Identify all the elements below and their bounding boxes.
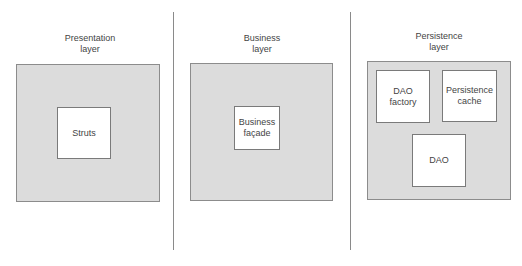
layer-divider-2 <box>350 12 351 250</box>
business-layer-title: Business layer <box>212 33 312 55</box>
struts-component: Struts <box>57 107 111 159</box>
struts-label: Struts <box>72 128 96 139</box>
dao-component: DAO <box>412 134 466 187</box>
layer-divider-1 <box>173 12 174 250</box>
persistence-layer-title: Persistence layer <box>389 31 489 53</box>
persistence-cache-label: Persistence cache <box>446 85 493 107</box>
presentation-layer-title-line2: layer <box>40 44 140 55</box>
persistence-layer-title-line1: Persistence <box>389 31 489 42</box>
presentation-layer-title: Presentation layer <box>40 33 140 55</box>
persistence-layer-title-line2: layer <box>389 42 489 53</box>
persistence-cache-component: Persistence cache <box>442 70 497 122</box>
business-facade-component: Business façade <box>234 106 280 150</box>
dao-factory-label: DAO factory <box>389 86 416 108</box>
business-layer-title-line1: Business <box>212 33 312 44</box>
business-facade-label: Business façade <box>239 117 276 139</box>
dao-label: DAO <box>429 155 449 166</box>
dao-factory-component: DAO factory <box>376 70 430 123</box>
presentation-layer-title-line1: Presentation <box>40 33 140 44</box>
business-layer-title-line2: layer <box>212 44 312 55</box>
